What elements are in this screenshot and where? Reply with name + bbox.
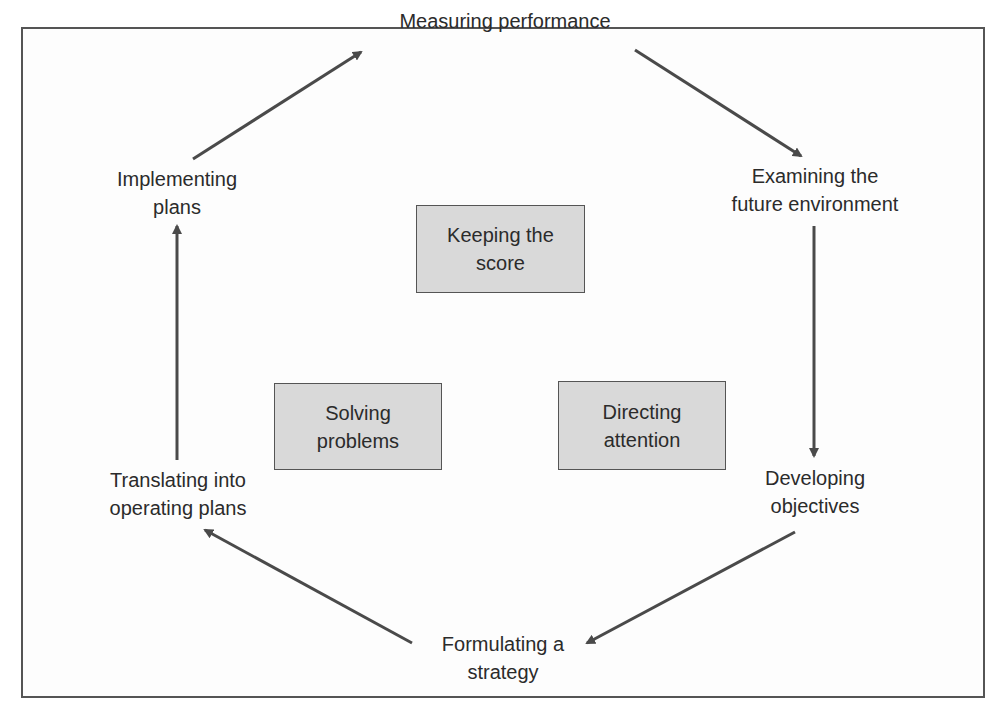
- arrow-developing-to-formulating: [587, 532, 795, 643]
- step-developing-objectives: Developing objectives: [735, 464, 895, 520]
- cycle-arrows: [0, 0, 1004, 722]
- step-implementing-plans: Implementing plans: [97, 165, 257, 221]
- step-translating-plans: Translating into operating plans: [88, 466, 268, 522]
- arrow-measuring-to-examining: [635, 50, 801, 156]
- step-measuring-performance: Measuring performance: [380, 7, 630, 35]
- step-examining-environment: Examining the future environment: [715, 162, 915, 218]
- arrow-formulating-to-translating: [205, 530, 412, 643]
- box-solving-problems: Solving problems: [274, 383, 442, 470]
- step-formulating-strategy: Formulating a strategy: [413, 630, 593, 686]
- box-directing-attention: Directing attention: [558, 381, 726, 470]
- arrow-implementing-to-measuring: [193, 52, 361, 159]
- box-keeping-the-score: Keeping the score: [416, 205, 585, 293]
